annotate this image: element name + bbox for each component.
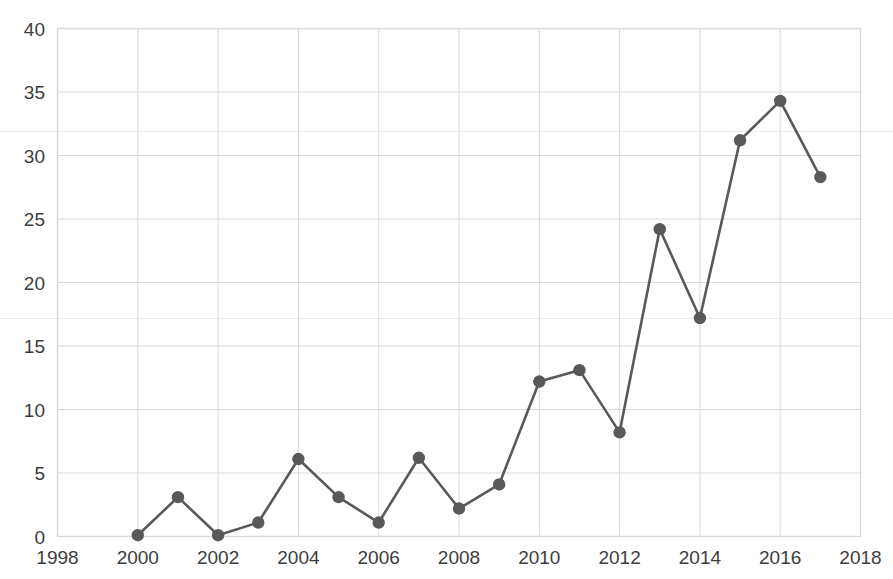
x-axis-tick-label: 2014 (665, 548, 735, 567)
data-point-marker (654, 223, 666, 235)
y-axis-tick-label: 35 (5, 83, 45, 102)
data-point-marker (212, 529, 224, 541)
y-axis-tick-label: 0 (5, 528, 45, 547)
line-chart: 0510152025303540 19982000200220042006200… (0, 0, 893, 579)
data-point-marker (613, 426, 625, 438)
y-axis-tick-label: 25 (5, 210, 45, 229)
x-axis-tick-label: 2012 (585, 548, 655, 567)
data-point-marker (132, 529, 144, 541)
y-axis-tick-label: 40 (5, 20, 45, 39)
y-axis-tick-label: 10 (5, 401, 45, 420)
x-axis-tick-label: 2002 (183, 548, 253, 567)
plot-area (0, 0, 893, 579)
x-axis-tick-label: 2016 (745, 548, 815, 567)
data-point-marker (172, 491, 184, 503)
x-axis-tick-label: 2008 (424, 548, 494, 567)
y-axis-tick-label: 30 (5, 147, 45, 166)
data-point-marker (533, 375, 545, 387)
y-axis-tick-label: 20 (5, 274, 45, 293)
series-line (138, 101, 821, 535)
x-axis-tick-label: 2006 (344, 548, 414, 567)
x-axis-tick-label: 2010 (504, 548, 574, 567)
y-axis-tick-label: 15 (5, 337, 45, 356)
x-axis-tick-label: 2000 (103, 548, 173, 567)
x-axis-tick-label: 2018 (826, 548, 893, 567)
data-point-marker (814, 171, 826, 183)
data-point-marker (252, 516, 264, 528)
data-point-marker (774, 95, 786, 107)
data-point-marker (413, 452, 425, 464)
x-axis-tick-label: 2004 (263, 548, 333, 567)
data-point-marker (292, 453, 304, 465)
data-point-marker (493, 478, 505, 490)
data-line (138, 101, 821, 535)
data-point-marker (332, 491, 344, 503)
data-point-marker (573, 364, 585, 376)
data-point-marker (694, 312, 706, 324)
data-point-marker (373, 516, 385, 528)
series-markers (132, 95, 827, 542)
x-axis-tick-label: 1998 (23, 548, 93, 567)
y-axis-tick-label: 5 (5, 464, 45, 483)
data-point-marker (453, 502, 465, 514)
data-point-marker (734, 134, 746, 146)
